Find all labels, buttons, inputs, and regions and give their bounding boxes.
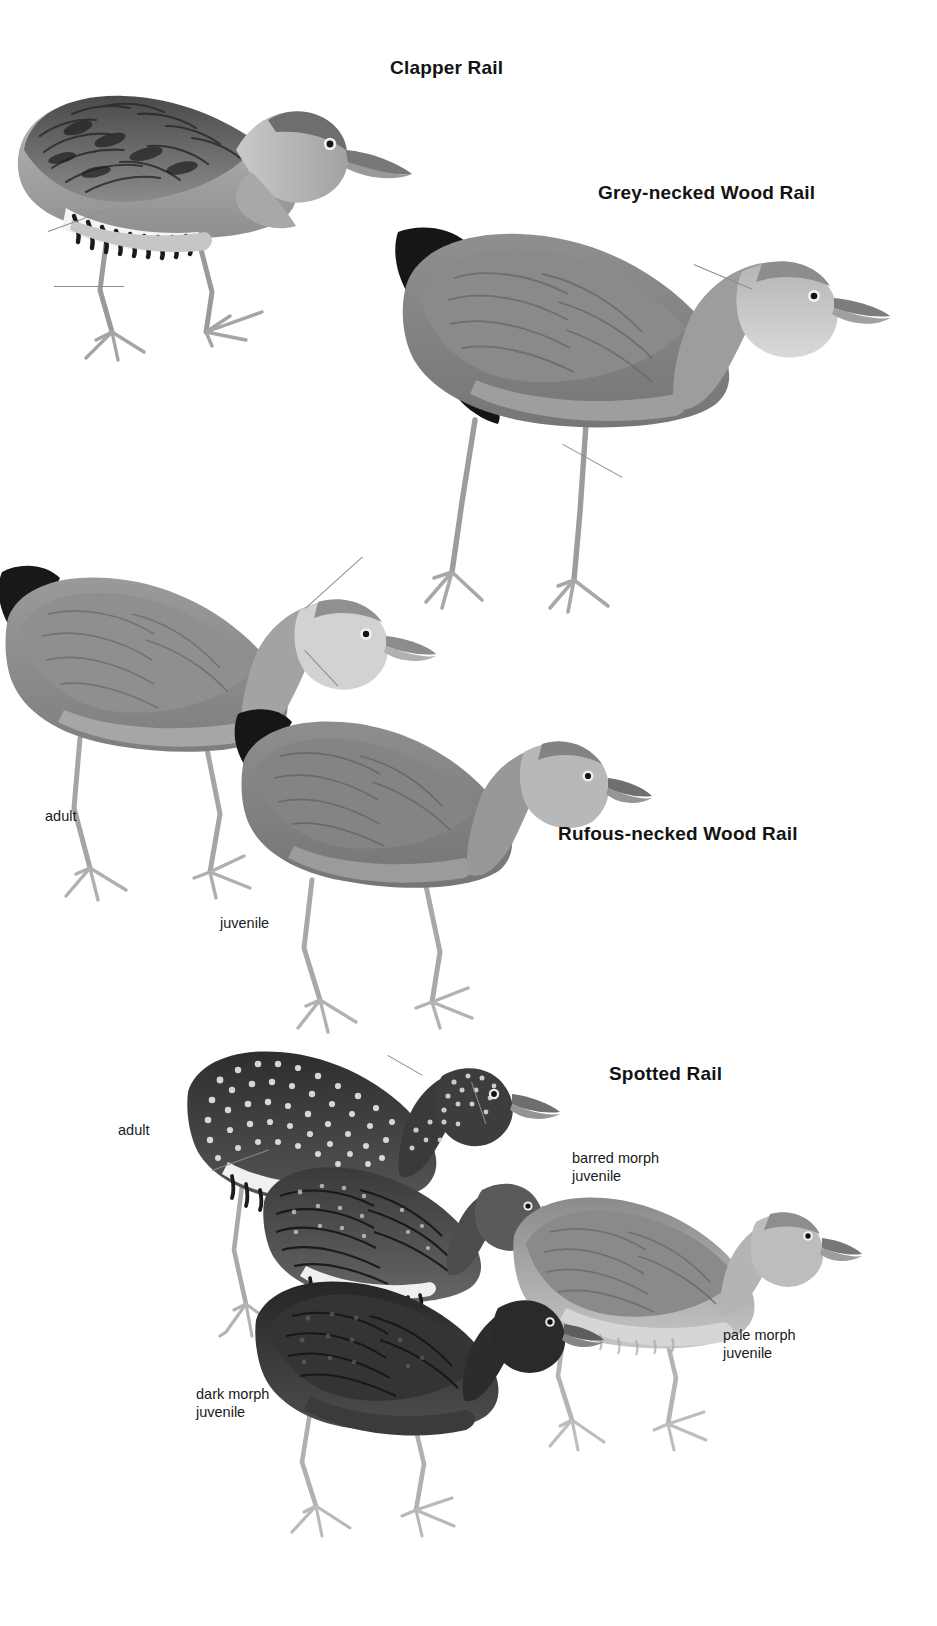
annotation-spotted-adult: adult — [118, 1122, 149, 1140]
bird-clapper-rail-adult — [0, 40, 430, 360]
species-label-spotted-rail: Spotted Rail — [609, 1063, 722, 1085]
annotation-spotted-pale-morph-juvenile: pale morph juvenile — [723, 1327, 796, 1362]
bird-spotted-rail-dark-morph-juvenile — [240, 1262, 570, 1542]
annotation-spotted-barred-morph-juvenile: barred morph juvenile — [572, 1150, 659, 1185]
species-label-clapper-rail: Clapper Rail — [390, 57, 503, 79]
species-label-rufous-necked-wood-rail: Rufous-necked Wood Rail — [558, 823, 798, 845]
bird-grey-necked-wood-rail-adult — [390, 212, 880, 632]
field-guide-plate: Clapper Rail Grey-necked Wood Rail Rufou… — [0, 0, 937, 1626]
annotation-spotted-dark-morph-juvenile: dark morph juvenile — [196, 1386, 269, 1421]
bird-rufous-necked-wood-rail-juvenile — [200, 700, 630, 1040]
species-label-grey-necked-wood-rail: Grey-necked Wood Rail — [598, 182, 815, 204]
annotation-rufous-juvenile: juvenile — [220, 915, 269, 933]
annotation-rufous-adult: adult — [45, 808, 76, 826]
leader-line — [54, 286, 124, 287]
